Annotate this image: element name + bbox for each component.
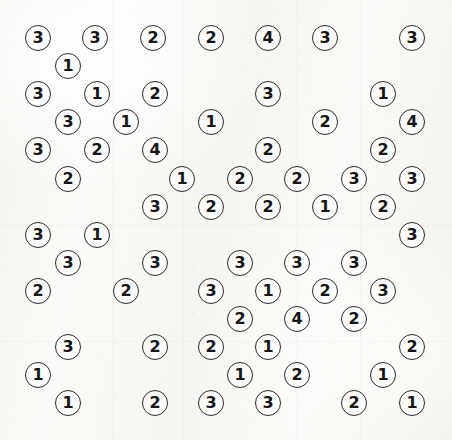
numbered-circle[interactable]: 3 [399, 222, 425, 248]
numbered-circle[interactable]: 2 [227, 306, 253, 332]
numbered-circle[interactable]: 4 [255, 25, 281, 51]
numbered-circle[interactable]: 1 [227, 362, 253, 388]
circle-digit: 3 [32, 142, 43, 158]
numbered-circle[interactable]: 2 [399, 334, 425, 360]
numbered-circle[interactable]: 2 [25, 278, 51, 304]
numbered-circle[interactable]: 1 [370, 362, 396, 388]
numbered-circle[interactable]: 2 [142, 390, 168, 416]
circle-digit: 1 [262, 339, 273, 355]
circle-digit: 3 [348, 171, 359, 187]
circle-digit: 3 [377, 283, 388, 299]
circle-digit: 1 [32, 367, 43, 383]
circle-digit: 2 [234, 311, 245, 327]
numbered-circle[interactable]: 1 [255, 278, 281, 304]
numbered-circle[interactable]: 3 [142, 250, 168, 276]
numbered-circle[interactable]: 3 [55, 334, 81, 360]
numbered-circle[interactable]: 4 [284, 306, 310, 332]
numbered-circle[interactable]: 2 [84, 137, 110, 163]
numbered-circle[interactable]: 3 [399, 166, 425, 192]
numbered-circle[interactable]: 2 [113, 278, 139, 304]
numbered-circle[interactable]: 3 [25, 222, 51, 248]
numbered-circle[interactable]: 3 [25, 81, 51, 107]
circle-digit: 3 [89, 30, 100, 46]
circle-digit: 3 [406, 171, 417, 187]
numbered-circle[interactable]: 3 [198, 278, 224, 304]
circle-digit: 1 [319, 199, 330, 215]
circle-digit: 3 [406, 227, 417, 243]
numbered-circle[interactable]: 3 [25, 25, 51, 51]
circle-digit: 2 [32, 283, 43, 299]
numbered-circle[interactable]: 3 [55, 109, 81, 135]
numbered-circle[interactable]: 3 [227, 250, 253, 276]
numbered-circle[interactable]: 2 [312, 109, 338, 135]
numbered-circle[interactable]: 2 [227, 166, 253, 192]
numbered-circle[interactable]: 3 [198, 390, 224, 416]
circle-digit: 3 [205, 395, 216, 411]
circle-digit: 2 [205, 199, 216, 215]
circle-digit: 3 [234, 255, 245, 271]
numbered-circle[interactable]: 3 [55, 250, 81, 276]
numbered-circle[interactable]: 2 [284, 166, 310, 192]
circle-digit: 3 [32, 30, 43, 46]
numbered-circle[interactable]: 3 [370, 278, 396, 304]
circle-digit: 2 [62, 171, 73, 187]
numbered-circle[interactable]: 2 [370, 137, 396, 163]
numbered-circle[interactable]: 1 [113, 109, 139, 135]
numbered-circle[interactable]: 2 [198, 25, 224, 51]
numbered-circle[interactable]: 2 [341, 390, 367, 416]
numbered-circle[interactable]: 1 [55, 53, 81, 79]
circle-digit: 2 [120, 283, 131, 299]
numbered-circle[interactable]: 1 [312, 194, 338, 220]
circle-digit: 3 [262, 86, 273, 102]
circle-digit: 3 [149, 199, 160, 215]
numbered-circle[interactable]: 2 [341, 306, 367, 332]
numbered-circle[interactable]: 2 [198, 194, 224, 220]
numbered-circle[interactable]: 3 [142, 194, 168, 220]
circle-digit: 3 [319, 30, 330, 46]
numbered-circle[interactable]: 2 [255, 194, 281, 220]
circle-digit: 2 [377, 142, 388, 158]
circle-digit: 3 [62, 114, 73, 130]
numbered-circle[interactable]: 3 [255, 81, 281, 107]
circle-digit: 3 [205, 283, 216, 299]
numbered-circle[interactable]: 2 [312, 278, 338, 304]
numbered-circle[interactable]: 1 [84, 222, 110, 248]
numbered-circle[interactable]: 3 [399, 25, 425, 51]
numbered-circle[interactable]: 2 [255, 137, 281, 163]
circle-digit: 2 [319, 114, 330, 130]
numbered-circle[interactable]: 2 [142, 81, 168, 107]
circle-digit: 3 [291, 255, 302, 271]
numbered-circle[interactable]: 3 [25, 137, 51, 163]
numbered-circle[interactable]: 1 [25, 362, 51, 388]
numbered-circle[interactable]: 1 [198, 109, 224, 135]
numbered-circle[interactable]: 3 [82, 25, 108, 51]
numbered-circle[interactable]: 3 [284, 250, 310, 276]
circle-digit: 2 [234, 171, 245, 187]
circle-digit: 4 [262, 30, 273, 46]
numbered-circle[interactable]: 3 [341, 250, 367, 276]
numbered-circle[interactable]: 1 [169, 166, 195, 192]
numbered-circle[interactable]: 2 [142, 334, 168, 360]
numbered-circle[interactable]: 3 [255, 390, 281, 416]
circle-digit: 2 [262, 142, 273, 158]
numbered-circle[interactable]: 1 [255, 334, 281, 360]
numbered-circle[interactable]: 2 [284, 362, 310, 388]
numbered-circle[interactable]: 1 [55, 390, 81, 416]
numbered-circle[interactable]: 2 [370, 194, 396, 220]
numbered-circle[interactable]: 3 [312, 25, 338, 51]
numbered-circle[interactable]: 1 [399, 390, 425, 416]
numbered-circle[interactable]: 2 [140, 25, 166, 51]
circle-digit: 1 [262, 283, 273, 299]
numbered-circle[interactable]: 4 [142, 137, 168, 163]
circle-digit: 1 [176, 171, 187, 187]
numbered-circle[interactable]: 1 [84, 81, 110, 107]
circle-digit: 1 [91, 86, 102, 102]
numbered-circle[interactable]: 1 [370, 81, 396, 107]
numbered-circle[interactable]: 3 [341, 166, 367, 192]
circle-digit: 1 [62, 395, 73, 411]
numbered-circle[interactable]: 2 [55, 166, 81, 192]
numbered-circle[interactable]: 4 [399, 109, 425, 135]
numbered-circle[interactable]: 2 [198, 334, 224, 360]
circle-digit: 2 [149, 86, 160, 102]
circle-digit: 2 [91, 142, 102, 158]
